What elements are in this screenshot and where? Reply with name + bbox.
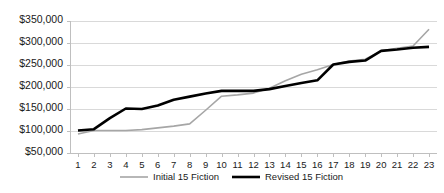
y-tick-label: $150,000: [19, 101, 63, 113]
x-tick-label: 14: [280, 159, 291, 170]
x-tick-label: 8: [187, 159, 192, 170]
series-line-0: [78, 29, 429, 134]
x-tick-label: 11: [233, 159, 243, 170]
gridlines: [70, 22, 437, 154]
y-tick-label: $300,000: [19, 35, 63, 47]
line-chart: $50,000$100,000$150,000$200,000$250,000$…: [0, 0, 444, 193]
x-tick-label: 12: [248, 159, 259, 170]
x-tick-label: 4: [123, 159, 128, 170]
y-tick-label: $250,000: [19, 57, 63, 69]
x-tick-label: 16: [312, 159, 323, 170]
x-axis: 1234567891011121314151617181920212223: [70, 154, 437, 170]
x-tick-label: 23: [424, 159, 435, 170]
x-tick-label: 3: [107, 159, 112, 170]
x-tick-label: 5: [139, 159, 144, 170]
y-tick-label: $350,000: [19, 13, 63, 25]
x-tick-label: 21: [392, 159, 403, 170]
x-tick-label: 13: [264, 159, 275, 170]
x-tick-label: 15: [296, 159, 307, 170]
y-axis: $50,000$100,000$150,000$200,000$250,000$…: [19, 13, 70, 157]
x-tick-label: 18: [344, 159, 355, 170]
series-line-1: [78, 47, 429, 131]
y-tick-label: $100,000: [19, 123, 63, 135]
legend-label-0: Initial 15 Fiction: [153, 171, 219, 182]
data-series: [78, 29, 429, 134]
x-tick-label: 19: [360, 159, 371, 170]
legend-label-1: Revised 15 Fiction: [265, 171, 343, 182]
x-tick-label: 2: [91, 159, 96, 170]
x-tick-label: 17: [328, 159, 339, 170]
x-tick-label: 22: [408, 159, 419, 170]
x-tick-label: 7: [171, 159, 176, 170]
y-tick-label: $50,000: [25, 145, 63, 157]
x-tick-label: 1: [75, 159, 80, 170]
x-tick-label: 10: [216, 159, 227, 170]
chart-canvas: $50,000$100,000$150,000$200,000$250,000$…: [0, 0, 444, 193]
x-tick-label: 20: [376, 159, 387, 170]
x-tick-label: 6: [155, 159, 160, 170]
chart-legend: Initial 15 FictionRevised 15 Fiction: [120, 171, 343, 182]
y-tick-label: $200,000: [19, 79, 63, 91]
x-tick-label: 9: [203, 159, 208, 170]
